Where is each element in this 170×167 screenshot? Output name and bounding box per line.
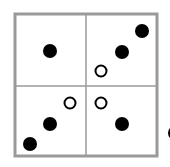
dots [23,24,170,151]
open-dot-bottom-left [65,98,76,109]
filled-dot-top-left [43,44,57,58]
filled-dot-outside-right [168,126,170,140]
dot-grid-diagram [0,0,170,167]
filled-dot-bottom-right [115,117,129,131]
filled-dot-bottom-left [43,117,57,131]
filled-dot-top-right [135,24,149,38]
open-dot-top-right [96,66,107,77]
filled-dot-bottom-left [23,137,37,151]
filled-dot-top-right [115,45,129,59]
open-dot-bottom-right [96,98,107,109]
